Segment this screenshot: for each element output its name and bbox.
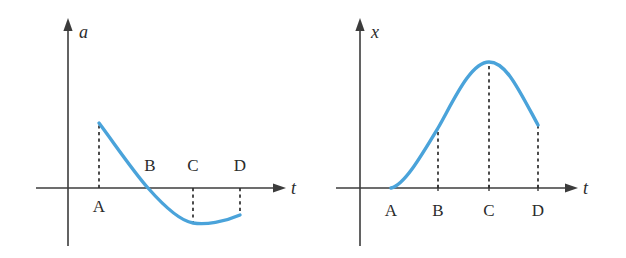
left-chart-label-b: B	[144, 156, 155, 175]
left-chart-x-axis-arrowhead	[273, 183, 286, 192]
left-chart-label-a: A	[93, 197, 106, 216]
right-chart-label-d: D	[532, 201, 544, 220]
left-chart-label-c: C	[187, 156, 198, 175]
chart-position-vs-time: x t A B C D	[336, 18, 589, 246]
left-chart-data-curve	[99, 123, 240, 224]
figure-canvas: a t A B C D x t	[0, 0, 626, 258]
right-chart-data-curve	[391, 62, 538, 188]
right-chart-label-b: B	[432, 201, 443, 220]
chart-acceleration-vs-time: a t A B C D	[36, 18, 297, 246]
physics-graph-figure: a t A B C D x t	[0, 0, 626, 258]
right-chart-y-axis-arrowhead	[355, 18, 364, 31]
left-chart-y-axis-label: a	[79, 22, 88, 42]
right-chart-y-axis-label: x	[370, 22, 379, 42]
left-chart-label-d: D	[234, 156, 246, 175]
left-chart-x-axis-label: t	[291, 178, 297, 198]
right-chart-x-axis-arrowhead	[565, 183, 578, 192]
right-chart-x-axis-label: t	[583, 178, 589, 198]
left-chart-y-axis-arrowhead	[63, 18, 72, 31]
right-chart-label-a: A	[385, 201, 398, 220]
right-chart-label-c: C	[483, 201, 494, 220]
